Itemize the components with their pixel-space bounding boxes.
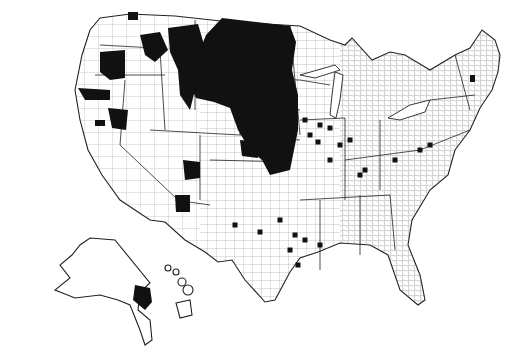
highlighted-county [328, 158, 333, 163]
alaska [55, 238, 152, 345]
highlighted-county-cluster [128, 12, 138, 20]
highlighted-county [393, 158, 398, 163]
highlighted-county [318, 123, 323, 128]
conterminous-us [0, 0, 531, 357]
highlighted-county [303, 238, 308, 243]
highlighted-county [303, 118, 308, 123]
highlighted-county [318, 243, 323, 248]
highlighted-county [260, 108, 265, 113]
highlighted-county-cluster [470, 75, 475, 82]
hawaii-island [178, 278, 186, 286]
highlighted-county-cluster [95, 120, 105, 126]
highlighted-county-cluster [240, 140, 258, 158]
highlighted-county [328, 126, 333, 131]
highlighted-county [338, 143, 343, 148]
hawaii-island [183, 285, 193, 295]
highlighted-county-cluster [183, 160, 200, 180]
highlighted-county [358, 173, 363, 178]
highlighted-county [296, 263, 301, 268]
highlighted-county [233, 223, 238, 228]
highlighted-county [308, 133, 313, 138]
highlighted-county [278, 218, 283, 223]
hawaii-island [165, 265, 171, 271]
highlighted-county [258, 230, 263, 235]
highlighted-county [418, 148, 423, 153]
highlighted-county-cluster [175, 195, 190, 212]
highlighted-county [363, 168, 368, 173]
hawaii [165, 265, 193, 318]
hawaii-big-island [176, 300, 192, 318]
hawaii-island [173, 269, 179, 275]
highlighted-county [273, 143, 278, 148]
highlighted-county [293, 233, 298, 238]
highlighted-county [428, 143, 433, 148]
us-county-map [0, 0, 531, 357]
highlighted-county [243, 118, 248, 123]
highlighted-county [288, 248, 293, 253]
highlighted-county [316, 140, 321, 145]
highlighted-county [348, 138, 353, 143]
